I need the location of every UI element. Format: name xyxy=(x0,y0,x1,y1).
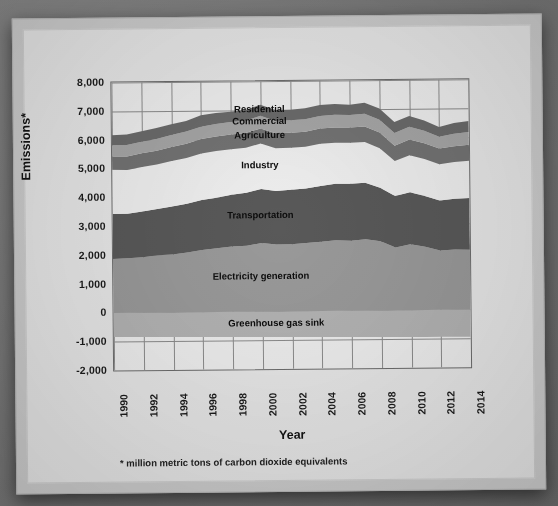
y-axis-tick-label: 6,000 xyxy=(43,134,105,145)
x-axis-title: Year xyxy=(114,426,471,443)
x-axis-tick-labels: 1990199219941996199820002002200420062008… xyxy=(113,370,470,425)
chart-sheet: Emissions* 8,0007,0006,0005,0004,0003,00… xyxy=(23,25,535,484)
x-axis-tick-label: 1994 xyxy=(177,394,189,417)
series-label-residential: Residential xyxy=(234,103,285,114)
y-axis-tick-label: 1,000 xyxy=(44,278,106,289)
y-axis-tick-label: -2,000 xyxy=(45,365,107,376)
series-label-commercial: Commercial xyxy=(232,115,286,127)
series-label-electricity-generation: Electricity generation xyxy=(213,270,310,282)
chart-card: Emissions* 8,0007,0006,0005,0004,0003,00… xyxy=(12,13,547,494)
x-axis-tick-label: 2002 xyxy=(296,392,308,415)
y-axis-tick-label: 8,000 xyxy=(42,77,104,88)
x-axis-tick-label: 2014 xyxy=(474,391,486,414)
y-axis-tick-label: 3,000 xyxy=(44,221,106,232)
y-axis-tick-label: 2,000 xyxy=(44,249,106,260)
x-axis-tick-label: 2004 xyxy=(326,392,338,415)
series-label-agriculture: Agriculture xyxy=(234,129,285,140)
x-axis-tick-label: 2012 xyxy=(445,391,457,414)
x-axis-tick-label: 1996 xyxy=(207,393,219,416)
y-axis-tick-label: 0 xyxy=(45,307,107,318)
y-axis-tick-label: 5,000 xyxy=(43,163,105,174)
y-axis-tick-labels: 8,0007,0006,0005,0004,0003,0002,0001,000… xyxy=(40,82,107,371)
y-axis-tick-label: 7,000 xyxy=(43,105,105,116)
y-axis-title: Emissions* xyxy=(19,113,34,181)
x-axis-tick-label: 2000 xyxy=(266,393,278,416)
x-axis-tick-label: 1992 xyxy=(147,394,159,417)
chart-footnote: * million metric tons of carbon dioxide … xyxy=(120,455,348,468)
x-axis-tick-label: 1990 xyxy=(117,394,129,417)
y-axis-tick-label: -1,000 xyxy=(45,336,107,347)
series-label-transportation: Transportation xyxy=(227,209,294,221)
x-axis-tick-label: 2010 xyxy=(415,391,427,414)
x-axis-tick-label: 2008 xyxy=(385,392,397,415)
series-inline-labels: Greenhouse gas sinkElectricity generatio… xyxy=(24,26,530,31)
series-label-greenhouse-gas-sink: Greenhouse gas sink xyxy=(228,317,324,329)
x-axis-tick-label: 1998 xyxy=(236,393,248,416)
y-axis-tick-label: 4,000 xyxy=(43,192,105,203)
x-axis-tick-label: 2006 xyxy=(355,392,367,415)
series-label-industry: Industry xyxy=(241,159,279,170)
